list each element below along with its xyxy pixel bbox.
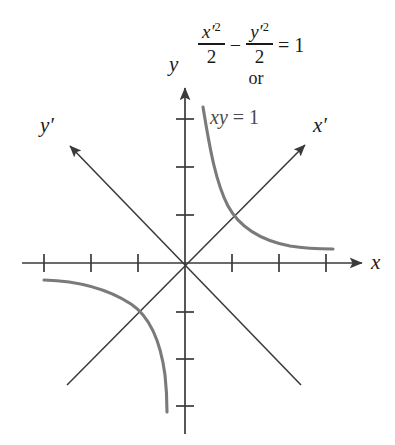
x-axis-label: x [371,252,380,273]
hyperbola-figure: y x y′ x′ x′2 2 − y′2 2 = 1 or xy = 1 [0,0,395,445]
equation-primary: x′2 2 − y′2 2 = 1 [196,22,386,67]
y-prime-base: y′ [250,21,263,42]
minus-operator: − [230,35,241,55]
x-prime-exponent: 2 [215,20,221,34]
fraction-denominator-1: 2 [207,45,217,68]
xy-equals-one: = 1 [233,106,259,128]
x-prime-axis-label: x′ [313,115,327,136]
y-prime-exponent: 2 [263,20,269,34]
fraction-denominator-2: 2 [255,45,265,68]
fraction-numerator-2: y′2 [246,22,273,43]
y-axis-label: y [169,54,178,75]
equals-one: = 1 [278,35,304,55]
axis-y [176,88,194,434]
equation-annotation: x′2 2 − y′2 2 = 1 or xy = 1 [196,22,386,89]
xy-term: xy [210,106,233,128]
fraction-y-prime-squared-over-2: y′2 2 [246,22,273,67]
y-prime-axis-label: y′ [40,115,54,136]
equation-alternate-form: xy = 1 [210,106,259,129]
fraction-numerator-1: x′2 [198,22,225,43]
axis-x [22,254,362,272]
fraction-x-prime-squared-over-2: x′2 2 [198,22,225,67]
x-prime-base: x′ [202,21,215,42]
equation-or-text: or [196,68,316,89]
